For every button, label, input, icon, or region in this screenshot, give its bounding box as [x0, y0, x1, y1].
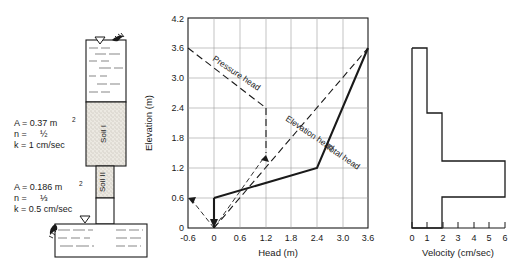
svg-text:4.2: 4.2	[171, 14, 184, 24]
soil-2-area-exponent: 2	[79, 180, 83, 187]
velocity-diagram: 0 1 2 3 4 5 6 Velocity (cm/sec)	[409, 48, 507, 258]
head-x-axis-title: Head (m)	[258, 247, 298, 258]
soil-1-parameters: A = 0.37 m 2 n = ½ k = 1 cm/sec	[14, 116, 76, 150]
velocity-x-axis-title: Velocity (cm/sec)	[422, 247, 494, 258]
svg-text:3.6: 3.6	[362, 233, 375, 243]
water-table-triangle-bottom	[80, 216, 90, 223]
velocity-x-tickmarks	[412, 222, 505, 228]
svg-text:4: 4	[471, 233, 476, 243]
svg-text:1.2: 1.2	[171, 163, 184, 173]
upper-water-column	[86, 40, 126, 102]
soil-1-area-exponent: 2	[72, 116, 76, 123]
velocity-profile-outline	[412, 48, 505, 228]
svg-text:0.6: 0.6	[171, 193, 184, 203]
svg-text:3.6: 3.6	[171, 43, 184, 53]
head-x-ticks: -0.6 0 0.6 1.2 1.8 2.4 3.0 3.6	[180, 233, 374, 243]
svg-text:6: 6	[502, 233, 507, 243]
svg-text:1.8: 1.8	[285, 233, 298, 243]
soil-2-area: A = 0.186 m	[14, 182, 62, 192]
svg-text:1.2: 1.2	[260, 233, 273, 243]
soil-1-area: A = 0.37 m	[14, 118, 57, 128]
soil-2-porosity-label: n =	[14, 193, 27, 203]
svg-text:1: 1	[424, 233, 429, 243]
head-y-axis-title: Elevation (m)	[143, 95, 154, 151]
head-y-ticks: 0 0.6 1.2 1.8 2.4 3.0 3.6 4.2	[171, 14, 184, 233]
soil-1-porosity-label: n =	[14, 129, 27, 139]
figure-svg: Soil I Soil II A = 0.37 m 2 n = ½	[0, 0, 519, 275]
permeameter-schematic: Soil I Soil II A = 0.37 m 2 n = ½	[14, 33, 147, 257]
svg-text:1.8: 1.8	[171, 133, 184, 143]
svg-text:-0.6: -0.6	[180, 233, 196, 243]
soil-1-label: Soil I	[99, 125, 108, 143]
svg-text:0: 0	[179, 223, 184, 233]
soil-2-label: Soil II	[98, 172, 107, 192]
soil-2-permeability: k = 0.5 cm/sec	[14, 204, 73, 214]
svg-text:0.6: 0.6	[234, 233, 247, 243]
svg-text:2.4: 2.4	[311, 233, 324, 243]
svg-text:3.0: 3.0	[171, 73, 184, 83]
soil-2-parameters: A = 0.186 m 2 n = ⅓ k = 0.5 cm/sec	[14, 180, 83, 214]
svg-text:3: 3	[455, 233, 460, 243]
svg-text:2.4: 2.4	[171, 103, 184, 113]
soil-2-porosity-value: ⅓	[40, 193, 48, 203]
head-diagram: Pressure head Elevation head Total head …	[143, 14, 374, 258]
svg-text:0: 0	[409, 233, 414, 243]
lower-pipe	[96, 198, 114, 224]
svg-text:2: 2	[440, 233, 445, 243]
figure-container: Soil I Soil II A = 0.37 m 2 n = ½	[0, 0, 519, 275]
soil-1-porosity-value: ½	[40, 129, 48, 139]
velocity-x-ticks: 0 1 2 3 4 5 6	[409, 233, 507, 243]
soil-1-permeability: k = 1 cm/sec	[14, 140, 65, 150]
svg-text:5: 5	[486, 233, 491, 243]
svg-text:0: 0	[211, 233, 216, 243]
head-plot-frame	[188, 18, 368, 228]
svg-text:3.0: 3.0	[337, 233, 350, 243]
lower-reservoir	[55, 224, 147, 257]
